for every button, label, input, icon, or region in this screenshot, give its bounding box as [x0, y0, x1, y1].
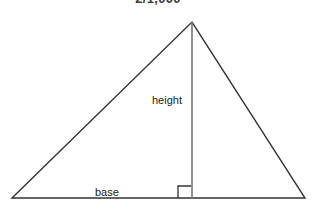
- height-label: height: [152, 94, 182, 106]
- geometry-diagram: 2/1,000 height base: [0, 0, 316, 210]
- right-angle-marker: [178, 186, 191, 198]
- base-label: base: [95, 186, 119, 198]
- triangle-outline: [12, 22, 305, 198]
